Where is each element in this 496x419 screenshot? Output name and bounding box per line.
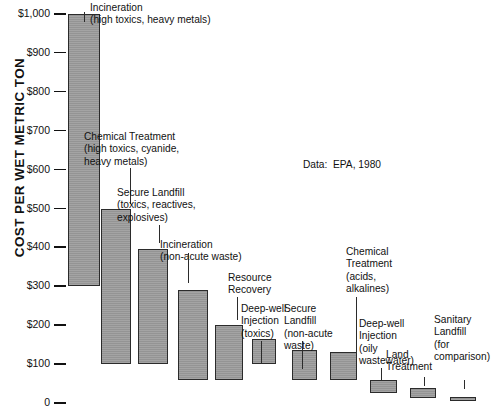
bar-label-5: Deep-well Injection (toxics)	[241, 303, 286, 340]
bar-label-0: Incineration (high toxics, heavy metals)	[90, 2, 211, 27]
y-axis-tick-mark	[54, 246, 66, 248]
y-axis-tick-label: $600	[27, 163, 50, 175]
leader-line-10	[464, 380, 465, 389]
bar-3	[178, 290, 208, 379]
y-axis-tick-mark	[54, 169, 66, 171]
bar-6	[292, 350, 317, 379]
leader-line-5	[261, 341, 262, 364]
y-axis-tick: $800	[0, 86, 66, 98]
y-axis-tick: $900	[0, 47, 66, 59]
bar-4	[215, 325, 243, 379]
bar-10	[450, 397, 476, 401]
y-axis-tick: $400	[0, 241, 66, 253]
y-axis-tick-label: $700	[27, 124, 50, 136]
y-axis-tick: $500	[0, 203, 66, 215]
y-axis-tick: $100	[0, 358, 66, 370]
bar-1	[101, 209, 131, 365]
leader-line-8	[381, 368, 382, 380]
y-axis-tick-mark	[54, 208, 66, 210]
y-axis-tick-label: $400	[27, 240, 50, 252]
y-axis-tick-label: $1,000	[18, 7, 50, 19]
y-axis-tick-label: $500	[27, 202, 50, 214]
y-axis-tick-mark	[54, 13, 66, 15]
bar-label-9: Land Treatment	[386, 349, 432, 374]
bar-2	[138, 249, 168, 364]
leader-line-9	[424, 377, 425, 386]
bar-label-6: Secure Landfill (non-acute waste)	[284, 303, 333, 352]
bar-5	[252, 339, 276, 364]
bar-7	[330, 352, 357, 379]
y-axis-tick-mark	[54, 402, 66, 404]
leader-line-7	[356, 297, 357, 364]
cost-per-wet-metric-ton-chart: COST PER WET METRIC TON $1,000$900$800$7…	[0, 0, 496, 419]
y-axis-tick: 0	[0, 397, 66, 409]
y-axis-tick-label: $300	[27, 279, 50, 291]
bar-label-3: Incineration (non-acute waste)	[160, 239, 242, 264]
y-axis-tick: $600	[0, 164, 66, 176]
y-axis-tick-mark	[54, 91, 66, 93]
y-axis-tick-label: $900	[27, 46, 50, 58]
bar-label-4: Resource Recovery	[228, 272, 272, 297]
leader-line-6	[302, 341, 303, 369]
y-axis-tick-mark	[54, 324, 66, 326]
bar-label-2: Secure Landfill (toxics, reactives, expl…	[117, 187, 196, 224]
leader-line-3	[188, 253, 189, 283]
bar-label-10: Sanitary Landfill (for comparison)	[434, 314, 490, 363]
y-axis-tick-mark	[54, 52, 66, 54]
y-axis-tick-mark	[54, 285, 66, 287]
y-axis-tick-label: $100	[27, 357, 50, 369]
y-axis-tick-mark	[54, 363, 66, 365]
bar-label-7: Chemical Treatment (acids, alkalines)	[346, 246, 392, 295]
y-axis-tick: $200	[0, 319, 66, 331]
y-axis-tick-mark	[54, 130, 66, 132]
bar-9	[410, 388, 436, 398]
y-axis-tick-label: $200	[27, 318, 50, 330]
y-axis-title: COST PER WET METRIC TON	[12, 43, 27, 273]
bar-label-1: Chemical Treatment (high toxics, cyanide…	[84, 131, 179, 168]
leader-line-0	[84, 12, 85, 22]
y-axis-tick: $300	[0, 280, 66, 292]
source-annotation: Data: EPA, 1980	[303, 159, 381, 170]
y-axis-tick: $1,000	[0, 8, 66, 20]
bar-8	[370, 380, 397, 394]
y-axis-tick-label: 0	[44, 396, 50, 408]
leader-line-4	[237, 297, 238, 320]
y-axis-tick-label: $800	[27, 85, 50, 97]
y-axis-tick: $700	[0, 125, 66, 137]
